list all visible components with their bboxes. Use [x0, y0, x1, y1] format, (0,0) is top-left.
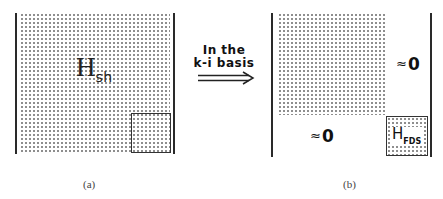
matrix-a-label: Hsh: [76, 54, 113, 85]
transform-label: In the k-i basis: [184, 44, 264, 70]
caption-b: (b): [343, 178, 356, 190]
matrix-a-label-sub: sh: [96, 69, 113, 85]
matrix-a-left-bracket: [15, 13, 17, 154]
approx-zero-value: 0: [408, 54, 420, 74]
approx-symbol: ≈: [310, 128, 321, 143]
matrix-a-label-main: H: [76, 52, 96, 82]
matrix-b-bottom-left-approx-zero: ≈0: [310, 126, 334, 146]
fds-label-sub: FDS: [403, 137, 421, 146]
transform-label-line2: k-i basis: [184, 57, 264, 70]
fds-label-main: H: [392, 125, 403, 143]
matrix-a-subblock: [131, 113, 171, 153]
matrix-a-right-bracket: [173, 13, 175, 154]
matrix-b-top-right-approx-zero: ≈0: [396, 54, 420, 74]
matrix-b-fds-label: HFDS: [391, 127, 422, 144]
approx-symbol: ≈: [396, 56, 407, 71]
matrix-b-left-bracket: [271, 13, 273, 157]
matrix-b-dotted-block: [278, 13, 386, 115]
matrix-b-right-bracket: [430, 13, 432, 157]
double-right-arrow-icon: [197, 71, 255, 85]
approx-zero-value: 0: [322, 126, 334, 146]
caption-a: (a): [83, 178, 95, 190]
